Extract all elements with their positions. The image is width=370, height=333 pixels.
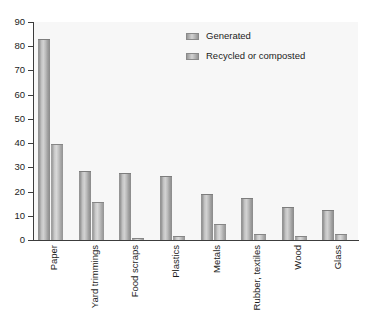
legend-item: Generated xyxy=(186,28,305,44)
legend-swatch-icon xyxy=(186,53,199,60)
y-axis-tick-label: 30 xyxy=(0,162,25,172)
x-axis-label: Glass xyxy=(333,245,343,269)
bar xyxy=(282,207,294,240)
y-axis-tick-label: 80 xyxy=(0,41,25,51)
bar xyxy=(201,194,213,240)
y-axis-tick-label: 90 xyxy=(0,17,25,27)
bar xyxy=(92,202,104,240)
bar xyxy=(38,39,50,240)
x-axis-label: Plastics xyxy=(171,245,181,278)
y-axis-tick xyxy=(28,240,33,241)
legend-label: Recycled or composted xyxy=(206,51,305,61)
x-axis-label: Food scraps xyxy=(130,245,140,297)
bar xyxy=(214,224,226,240)
bar xyxy=(254,234,266,240)
bar xyxy=(119,173,131,240)
y-axis-tick xyxy=(28,167,33,168)
legend-swatch-icon xyxy=(186,33,199,40)
x-axis-label: Wood xyxy=(293,245,303,270)
y-axis-tick xyxy=(28,46,33,47)
bar xyxy=(322,210,334,240)
y-axis-tick-label: 60 xyxy=(0,90,25,100)
y-axis-tick xyxy=(28,70,33,71)
x-axis-label: Paper xyxy=(49,245,59,270)
y-axis-tick-label: 40 xyxy=(0,138,25,148)
y-axis-tick-label: 0 xyxy=(0,235,25,245)
bar xyxy=(132,238,144,240)
x-axis-label: Rubber, textiles xyxy=(252,245,262,310)
x-axis-label: Yard trimmings xyxy=(90,245,100,308)
bar xyxy=(160,176,172,240)
bar xyxy=(295,236,307,240)
x-axis-label: Metals xyxy=(212,245,222,273)
chart-figure: 0102030405060708090 PaperYard trimmingsF… xyxy=(0,0,370,333)
bar xyxy=(241,198,253,240)
legend-label: Generated xyxy=(206,31,251,41)
bar xyxy=(173,236,185,240)
chart-legend: GeneratedRecycled or composted xyxy=(186,28,305,68)
y-axis-tick xyxy=(28,143,33,144)
y-axis-tick-label: 20 xyxy=(0,187,25,197)
y-axis-tick xyxy=(28,192,33,193)
bar xyxy=(51,144,63,240)
legend-item: Recycled or composted xyxy=(186,48,305,64)
y-axis-tick-label: 50 xyxy=(0,114,25,124)
bar xyxy=(335,234,347,240)
y-axis-tick-label: 10 xyxy=(0,211,25,221)
y-axis-tick xyxy=(28,119,33,120)
y-axis-line xyxy=(33,22,34,241)
y-axis-tick xyxy=(28,216,33,217)
y-axis-tick xyxy=(28,22,33,23)
y-axis-tick-label: 70 xyxy=(0,65,25,75)
x-axis-line xyxy=(33,240,359,241)
y-axis-tick xyxy=(28,95,33,96)
bar xyxy=(79,171,91,240)
